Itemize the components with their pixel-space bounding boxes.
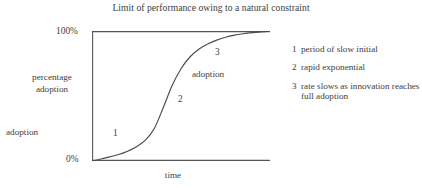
y-axis-title-secondary: adoption [6,127,38,137]
plot-annotation-2: 2 [178,94,183,104]
y-axis-title: percentageadoption [18,72,86,95]
legend-key: 2 [292,62,301,73]
plot-annotation-adoption: adoption [192,69,224,79]
y-axis-tick-label-top: 100% [56,26,78,36]
chart-title: Limit of performance owing to a natural … [0,2,422,13]
plot-annotation-3: 3 [215,47,220,57]
legend-item: 3 rate slows as innovation reaches full … [292,81,420,103]
plot-annotation-1: 1 [113,128,118,138]
legend: 1 period of slow initial 2 rapid exponen… [292,44,420,110]
legend-item: 1 period of slow initial [292,44,420,55]
y-axis-tick-label-bottom: 0% [66,154,79,164]
legend-label: period of slow initial [301,44,420,55]
x-axis-title: time [118,170,228,180]
legend-key: 1 [292,44,301,55]
adoption-s-curve-figure: Limit of performance owing to a natural … [0,0,422,188]
legend-label: rate slows as innovation reaches full ad… [301,81,420,103]
legend-label: rapid exponential [301,62,420,73]
legend-item: 2 rapid exponential [292,62,420,73]
legend-key: 3 [292,81,301,92]
